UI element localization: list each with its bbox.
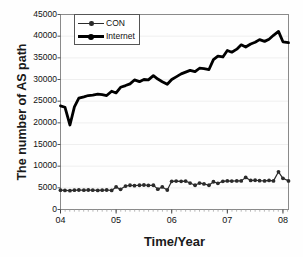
series-marker-con: [193, 183, 197, 187]
series-line-internet: [61, 31, 289, 125]
series-marker-con: [249, 179, 253, 183]
series-marker-con: [281, 176, 285, 180]
y-axis-tick-label: 35000: [5, 53, 57, 62]
series-marker-con: [235, 179, 239, 183]
series-marker-con: [198, 181, 202, 185]
series-marker-con: [146, 184, 150, 188]
series-marker-con: [212, 180, 216, 184]
legend-item-con: CON: [78, 17, 125, 30]
series-marker-con: [114, 185, 118, 189]
legend-label-internet: Internet: [106, 32, 135, 41]
series-marker-con: [174, 179, 178, 183]
y-axis-tick-label: 15000: [5, 140, 57, 149]
series-marker-con: [267, 179, 271, 183]
series-marker-con: [119, 187, 123, 191]
series-marker-con: [221, 179, 225, 183]
y-axis-title: The number of AS path: [15, 12, 29, 212]
x-axis-tick-label: 08: [263, 215, 303, 225]
x-axis-tick-label: 04: [41, 215, 81, 225]
series-marker-con: [179, 179, 183, 183]
series-marker-con: [63, 189, 67, 193]
legend-item-internet: Internet: [78, 30, 135, 43]
series-marker-con: [105, 188, 109, 192]
series-marker-con: [170, 179, 174, 183]
series-marker-con: [156, 187, 160, 191]
series-marker-con: [96, 189, 100, 193]
y-axis-tick-label: 30000: [5, 75, 57, 84]
legend-marker-con-icon: [78, 18, 104, 29]
series-marker-con: [160, 185, 164, 189]
series-marker-con: [184, 179, 188, 183]
series-marker-con: [128, 183, 132, 187]
x-axis-tick-label: 07: [207, 215, 247, 225]
y-axis-tick-label: 25000: [5, 96, 57, 105]
x-axis-tick-label: 05: [96, 215, 136, 225]
y-axis-tick-label: 45000: [5, 10, 57, 19]
series-marker-con: [73, 188, 77, 192]
series-marker-con: [188, 181, 192, 185]
y-axis-tick-label: 10000: [5, 161, 57, 170]
series-marker-con: [138, 183, 142, 187]
series-marker-con: [142, 183, 146, 187]
y-axis-tick-label: 0: [5, 205, 57, 214]
chart-legend: CON Internet: [74, 14, 140, 45]
legend-label-con: CON: [106, 19, 125, 28]
series-marker-con: [59, 188, 63, 192]
series-marker-con: [230, 179, 234, 183]
series-marker-con: [277, 170, 281, 174]
series-marker-con: [244, 176, 248, 180]
series-marker-con: [216, 181, 220, 185]
x-axis-tick-label: 06: [152, 215, 192, 225]
series-marker-con: [77, 188, 81, 192]
series-marker-con: [124, 184, 128, 188]
series-marker-con: [272, 179, 276, 183]
series-marker-con: [207, 183, 211, 187]
y-axis-tick-label: 40000: [5, 31, 57, 40]
chart-figure: 4500040000350003000025000200001500010000…: [0, 0, 303, 257]
series-marker-con: [202, 182, 206, 186]
series-marker-con: [91, 188, 95, 192]
series-marker-con: [110, 189, 114, 193]
series-marker-con: [100, 188, 104, 192]
series-marker-con: [86, 188, 90, 192]
legend-marker-internet-icon: [78, 31, 104, 42]
series-marker-con: [263, 179, 267, 183]
series-marker-con: [68, 189, 72, 193]
series-marker-con: [239, 179, 243, 183]
series-marker-con: [165, 188, 169, 192]
series-marker-con: [225, 179, 229, 183]
series-marker-con: [258, 179, 262, 183]
series-marker-con: [82, 188, 86, 192]
y-axis-tick-label: 5000: [5, 183, 57, 192]
series-marker-con: [133, 184, 137, 188]
series-marker-con: [253, 178, 257, 182]
series-marker-con: [151, 183, 155, 187]
x-axis-title: Time/Year: [60, 234, 289, 249]
series-marker-con: [287, 179, 291, 183]
y-axis-tick-label: 20000: [5, 118, 57, 127]
